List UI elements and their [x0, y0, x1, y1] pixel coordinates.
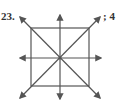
symmetry-figure	[0, 0, 126, 106]
center-point	[59, 57, 62, 60]
